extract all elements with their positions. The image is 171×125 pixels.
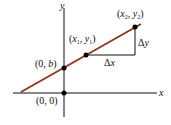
label-p1: (x1, y1) [69, 33, 96, 45]
point-intercept [62, 66, 67, 71]
y-axis-label: y [59, 0, 65, 11]
point-origin [62, 91, 67, 96]
label-intercept: (0, b) [35, 58, 57, 70]
x-axis-label: x [158, 87, 164, 98]
label-delta-x: Δx [104, 57, 115, 68]
label-origin: (0, 0) [36, 95, 58, 107]
point-p2 [133, 25, 138, 30]
slope-diagram: y x (x2, y2) (x1, y1) (0, b) (0, 0) Δy Δ… [0, 0, 171, 125]
label-delta-y: Δy [138, 37, 149, 48]
label-p2: (x2, y2) [117, 8, 144, 20]
point-p1 [84, 53, 89, 58]
